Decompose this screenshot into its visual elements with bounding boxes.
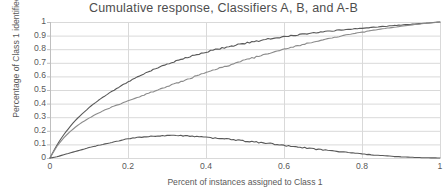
axis-lines: [47, 22, 51, 159]
x-tick-label: 1: [420, 161, 447, 171]
cumulative-response-chart: Cumulative response, Classifiers A, B, a…: [0, 0, 447, 195]
y-tick-label: 0.6: [20, 71, 46, 80]
x-tick-label: 0.6: [264, 161, 304, 171]
y-tick-label: 1: [20, 17, 46, 26]
x-tick-label: 0.8: [342, 161, 382, 171]
x-axis-ticks: 00.20.40.60.81: [0, 161, 447, 175]
x-tick-label: 0: [30, 161, 70, 171]
series-line-a-b: [50, 135, 440, 158]
y-tick-label: 0.2: [20, 126, 46, 135]
gridlines: [50, 22, 441, 159]
y-tick-label: 0.8: [20, 44, 46, 53]
x-tick-label: 0.4: [186, 161, 226, 171]
y-tick-label: 0.4: [20, 99, 46, 108]
chart-title: Cumulative response, Classifiers A, B, a…: [0, 1, 447, 15]
y-tick-label: 0.7: [20, 58, 46, 67]
y-tick-label: 0.1: [20, 139, 46, 148]
y-tick-label: 0.5: [20, 85, 46, 94]
x-axis-label: Percent of instances assigned to Class 1: [50, 177, 440, 187]
y-tick-label: 0.9: [20, 31, 46, 40]
y-tick-label: 0.3: [20, 112, 46, 121]
x-tick-label: 0.2: [108, 161, 148, 171]
